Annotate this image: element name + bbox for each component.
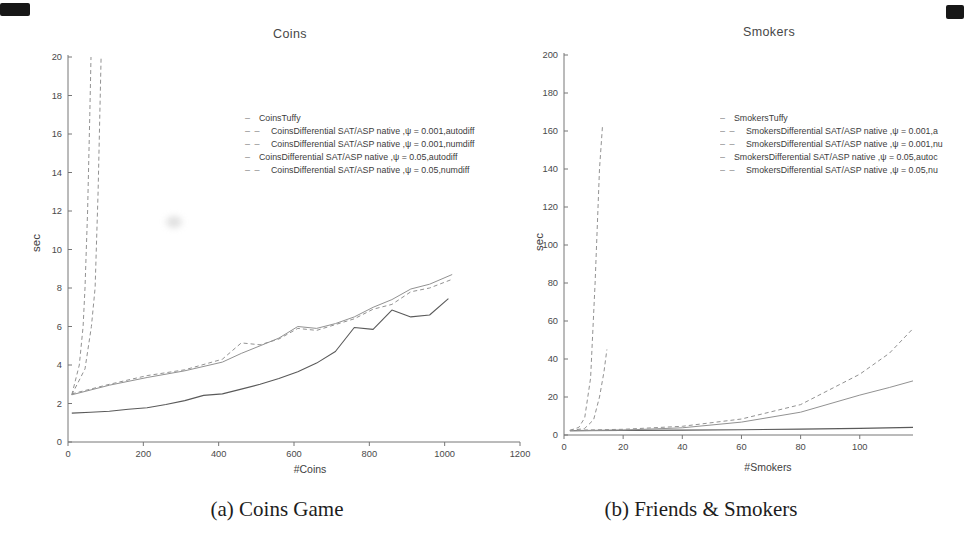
series-line [570, 350, 607, 431]
series-line [570, 329, 913, 431]
legend-item: –CoinsDifferential SAT/ASP native ,ψ = 0… [245, 151, 474, 164]
series-line [72, 275, 452, 395]
x-tick-label: 200 [136, 449, 152, 459]
y-tick-label: 20 [52, 52, 62, 62]
legend-label: CoinsDifferential SAT/ASP native ,ψ = 0.… [271, 125, 474, 138]
legend-label: SmokersDifferential SAT/ASP native ,ψ = … [746, 138, 943, 151]
y-tick-label: 180 [542, 88, 558, 98]
dashed-line-marker: – – [245, 138, 271, 151]
y-tick-label: 120 [542, 202, 558, 212]
legend-label: SmokersDifferential SAT/ASP native ,ψ = … [746, 125, 938, 138]
legend-label: SmokersDifferential SAT/ASP native ,ψ = … [746, 164, 938, 177]
scan-mark-top-right [946, 5, 964, 19]
legend-item: – –CoinsDifferential SAT/ASP native ,ψ =… [245, 164, 474, 177]
smokers-x-axis-label: #Smokers [708, 461, 828, 473]
chart-title-coins: Coins [200, 27, 380, 41]
legend-item: –SmokersTuffy [720, 112, 964, 125]
dashed-line-marker: – – [720, 164, 746, 177]
series-line [570, 381, 913, 431]
y-tick-label: 20 [548, 392, 558, 402]
dashed-line-marker: – – [245, 164, 271, 177]
solid-line-marker: – [245, 112, 259, 125]
legend-label: CoinsDifferential SAT/ASP native ,ψ = 0.… [259, 151, 458, 164]
chart-title-smokers: Smokers [679, 25, 859, 39]
legend-item: –CoinsTuffy [245, 112, 474, 125]
legend-label: CoinsDifferential SAT/ASP native ,ψ = 0.… [271, 164, 470, 177]
x-tick-label: 400 [211, 449, 227, 459]
y-tick-label: 0 [553, 430, 558, 440]
x-tick-label: 40 [677, 442, 687, 452]
x-tick-label: 1000 [434, 449, 455, 459]
dashed-line-marker: – – [720, 138, 746, 151]
solid-line-marker: – [245, 151, 259, 164]
x-tick-label: 100 [852, 442, 868, 452]
legend-label: SmokersDifferential SAT/ASP native ,ψ = … [734, 151, 938, 164]
y-tick-label: 4 [57, 360, 62, 370]
y-tick-label: 6 [57, 322, 62, 332]
y-tick-label: 200 [542, 50, 558, 60]
caption-friends-smokers: (b) Friends & Smokers [551, 497, 851, 522]
legend-item: – –CoinsDifferential SAT/ASP native ,ψ =… [245, 138, 474, 151]
series-line [72, 279, 452, 394]
coins-y-axis-label: sec [30, 228, 44, 258]
legend-label: CoinsTuffy [259, 112, 301, 125]
coins-legend: –CoinsTuffy– –CoinsDifferential SAT/ASP … [245, 112, 474, 177]
legend-item: – –SmokersDifferential SAT/ASP native ,ψ… [720, 164, 964, 177]
y-tick-label: 8 [57, 283, 62, 293]
dashed-line-marker: – – [720, 125, 746, 138]
coins-x-axis-label: #Coins [250, 463, 370, 475]
y-tick-label: 18 [52, 91, 62, 101]
series-line [72, 57, 91, 395]
y-tick-label: 12 [52, 206, 62, 216]
scanned-paper-figure: { "figure": { "caption_a": "(a) Coins Ga… [0, 0, 964, 552]
x-tick-label: 0 [65, 449, 70, 459]
y-tick-label: 160 [542, 126, 558, 136]
y-tick-label: 16 [52, 129, 62, 139]
legend-item: – –SmokersDifferential SAT/ASP native ,ψ… [720, 125, 964, 138]
smokers-legend: –SmokersTuffy– –SmokersDifferential SAT/… [720, 112, 964, 177]
legend-label: SmokersTuffy [734, 112, 788, 125]
solid-line-marker: – [720, 112, 734, 125]
solid-line-marker: – [720, 151, 734, 164]
series-line [72, 299, 449, 414]
y-tick-label: 140 [542, 164, 558, 174]
y-tick-label: 80 [548, 278, 558, 288]
x-tick-label: 60 [736, 442, 746, 452]
series-line [72, 57, 101, 395]
legend-label: CoinsDifferential SAT/ASP native ,ψ = 0.… [271, 138, 474, 151]
axes: 020406080100020406080100120140160180200 [542, 50, 913, 452]
y-tick-label: 40 [548, 354, 558, 364]
x-tick-label: 800 [362, 449, 378, 459]
y-tick-label: 60 [548, 316, 558, 326]
scan-mark-top-left [0, 3, 30, 16]
x-tick-label: 600 [286, 449, 302, 459]
y-tick-label: 14 [52, 168, 62, 178]
caption-coins-game: (a) Coins Game [127, 497, 427, 522]
series-lines [72, 57, 452, 413]
x-tick-label: 20 [618, 442, 628, 452]
y-tick-label: 10 [52, 245, 62, 255]
dashed-line-marker: – – [245, 125, 271, 138]
x-tick-label: 0 [561, 442, 566, 452]
series-line [570, 127, 603, 430]
x-tick-label: 80 [795, 442, 805, 452]
legend-item: –SmokersDifferential SAT/ASP native ,ψ =… [720, 151, 964, 164]
y-tick-label: 0 [57, 437, 62, 447]
legend-item: – –CoinsDifferential SAT/ASP native ,ψ =… [245, 125, 474, 138]
smokers-y-axis-label: sec [533, 227, 547, 257]
y-tick-label: 2 [57, 399, 62, 409]
legend-item: – –SmokersDifferential SAT/ASP native ,ψ… [720, 138, 964, 151]
